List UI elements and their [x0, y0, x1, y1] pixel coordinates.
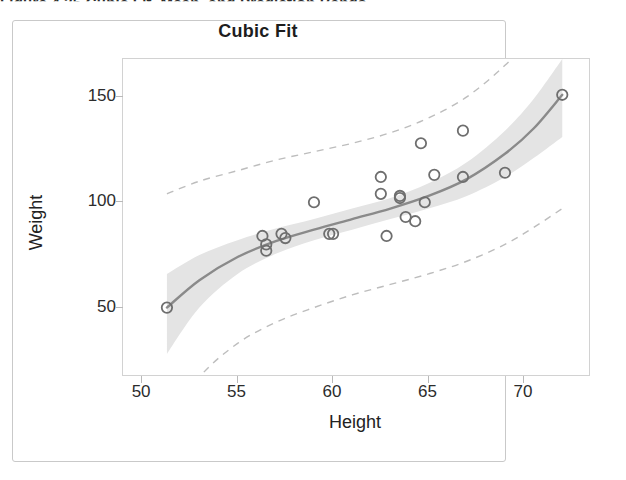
scatter-point — [416, 138, 426, 148]
y-tick-mark — [116, 201, 123, 202]
x-tick-mark — [237, 375, 238, 383]
scatter-point — [376, 172, 386, 182]
scatter-point — [309, 197, 319, 207]
plot-svg — [123, 59, 589, 375]
scatter-point — [381, 231, 391, 241]
x-tick-mark — [523, 375, 524, 383]
y-tick-mark — [116, 307, 123, 308]
scatter-point — [429, 170, 439, 180]
x-tick-mark — [332, 375, 333, 383]
x-tick-label: 55 — [207, 382, 267, 402]
x-tick-label: 65 — [398, 382, 458, 402]
x-tick-mark — [141, 375, 142, 383]
x-tick-label: 70 — [493, 382, 553, 402]
figure-page: Figure 4.35 Cubic Fit, Mean, and Predict… — [0, 0, 626, 480]
x-tick-mark — [428, 375, 429, 383]
scatter-point — [458, 125, 468, 135]
scatter-point — [376, 189, 386, 199]
prediction-limit-lower — [167, 209, 562, 375]
x-tick-label: 50 — [111, 382, 171, 402]
plot-area — [122, 58, 590, 376]
scatter-point — [410, 216, 420, 226]
y-tick-mark — [116, 96, 123, 97]
mean-confidence-band — [167, 59, 562, 354]
x-tick-label: 60 — [302, 382, 362, 402]
